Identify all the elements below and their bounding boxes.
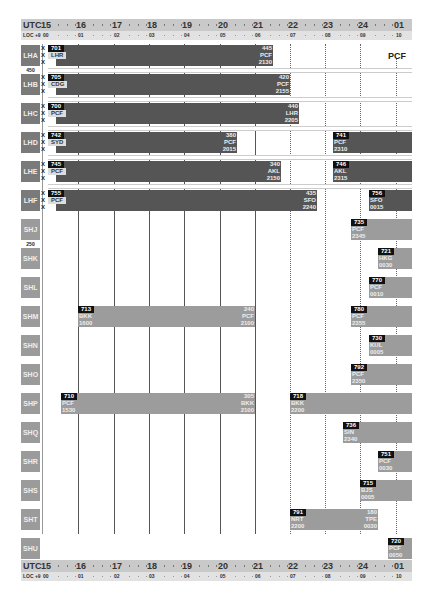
- quarter-tick: [384, 565, 385, 567]
- flight-bar[interactable]: 746AKL2315: [333, 161, 412, 182]
- quarter-tick: [340, 565, 341, 567]
- aircraft-reg-lhd[interactable]: LHD: [21, 132, 40, 153]
- aircraft-reg-shn[interactable]: SHN: [21, 335, 40, 356]
- quarter-tick: [305, 576, 306, 577]
- quarter-tick: [244, 565, 245, 567]
- flight-bar[interactable]: 721HKG0030: [378, 248, 412, 269]
- aircraft-reg-shl[interactable]: SHL: [21, 277, 40, 298]
- flight-bar[interactable]: 713BKK1600240PCF2100: [78, 306, 255, 327]
- quarter-tick: [93, 35, 94, 36]
- origin-station: AKL: [334, 168, 346, 175]
- flight-number: 741: [333, 132, 349, 139]
- x-marks[interactable]: XXX: [41, 161, 45, 182]
- origin-station: PCF: [48, 110, 66, 117]
- aircraft-reg-shu[interactable]: SHU: [21, 538, 40, 559]
- aircraft-reg-lhf[interactable]: LHF: [21, 190, 40, 211]
- quarter-tick: [93, 565, 94, 567]
- return-flight-number: 380: [226, 132, 236, 139]
- utc-hour-tick: 18: [147, 560, 157, 572]
- aircraft-reg-sht[interactable]: SHT: [21, 509, 40, 530]
- flight-bar[interactable]: 791NRT2200180TPE0030: [290, 509, 378, 530]
- quarter-tick: [58, 576, 59, 577]
- quarter-tick: [110, 35, 111, 36]
- local-hour-tick: 07: [290, 572, 296, 581]
- flight-number: 715: [360, 480, 376, 487]
- flight-number: 791: [290, 509, 306, 516]
- flight-bar[interactable]: 445PCF2130: [56, 45, 273, 66]
- quarter-tick: [322, 35, 323, 36]
- origin-station: SIN: [344, 429, 354, 436]
- aircraft-reg-lha[interactable]: LHA: [21, 45, 40, 66]
- flight-bar[interactable]: 440LHR2205: [56, 103, 299, 124]
- quarter-tick: [93, 576, 94, 577]
- quarter-tick: [102, 576, 103, 577]
- flight-bar[interactable]: 770PCF0010: [369, 277, 412, 298]
- aircraft-reg-lhb[interactable]: LHB: [21, 74, 40, 95]
- quarter-tick: [357, 576, 358, 577]
- destination-station: PCF: [277, 81, 289, 88]
- quarter-tick: [164, 565, 165, 567]
- hour-gridline: [325, 44, 326, 534]
- flight-bar[interactable]: 340AKL2150: [56, 161, 281, 182]
- flight-bar[interactable]: 756SFO0015: [369, 190, 412, 211]
- x-marks[interactable]: XXX: [41, 45, 45, 66]
- aircraft-reg-lhc[interactable]: LHC: [21, 103, 40, 124]
- quarter-tick: [208, 565, 209, 567]
- return-flight-number: 340: [270, 161, 280, 168]
- aircraft-reg-shq[interactable]: SHQ: [21, 422, 40, 443]
- aircraft-reg-shj[interactable]: SHJ: [21, 219, 40, 240]
- aircraft-reg-shk[interactable]: SHK: [21, 248, 40, 269]
- flight-bar[interactable]: 736SIN2340: [343, 422, 412, 443]
- quarter-tick: [305, 565, 306, 567]
- utc-hour-tick: 18: [147, 19, 157, 31]
- aircraft-reg-shs[interactable]: SHS: [21, 480, 40, 501]
- flight-bar[interactable]: 435SFO2240: [56, 190, 317, 211]
- destination-station: SFO: [304, 197, 316, 204]
- aircraft-reg-sho[interactable]: SHO: [21, 364, 40, 385]
- quarter-tick: [216, 35, 217, 36]
- x-marks[interactable]: XXX: [41, 103, 45, 124]
- aircraft-reg-shr[interactable]: SHR: [21, 451, 40, 472]
- flight-bar[interactable]: 380PCF2015: [56, 132, 237, 153]
- quarter-tick: [102, 24, 103, 26]
- flight-bar[interactable]: 420PCF2155: [56, 74, 290, 95]
- flight-bar[interactable]: 730KUL0005: [369, 335, 412, 356]
- departure-time: 1600: [79, 320, 92, 327]
- x-marks[interactable]: XXX: [41, 74, 45, 95]
- local-hour-tick: 02: [114, 31, 120, 40]
- flight-bar[interactable]: 735PCF2345: [351, 219, 412, 240]
- aircraft-reg-shp[interactable]: SHP: [21, 393, 40, 414]
- station-label: PCF: [388, 51, 406, 61]
- flight-bar[interactable]: 715BJS0005: [360, 480, 412, 501]
- quarter-tick: [235, 565, 236, 567]
- flight-bar[interactable]: 780PCF2355: [351, 306, 412, 327]
- flight-number: 755: [48, 190, 64, 197]
- flight-bar[interactable]: 792PCF2350: [351, 364, 412, 385]
- flight-bar[interactable]: 710PCF1530305BKK2100: [61, 393, 255, 414]
- utc-hour-tick: 01: [394, 19, 404, 31]
- quarter-tick: [129, 24, 130, 26]
- quarter-tick: [67, 565, 68, 567]
- quarter-tick: [384, 24, 385, 26]
- quarter-tick: [279, 565, 280, 567]
- quarter-tick: [270, 35, 271, 36]
- flight-bar[interactable]: 751PCF0030: [378, 451, 412, 472]
- aircraft-reg-lhe[interactable]: LHE: [21, 161, 40, 182]
- flight-bar[interactable]: 718BKK2200: [290, 393, 412, 414]
- x-marks[interactable]: XXX: [41, 190, 45, 211]
- quarter-tick: [173, 24, 174, 26]
- flight-number: 700: [48, 103, 64, 110]
- local-hour-tick: 03: [149, 31, 155, 40]
- quarter-tick: [349, 565, 350, 567]
- local-hour-tick: 01: [78, 572, 84, 581]
- quarter-tick: [252, 35, 253, 36]
- origin-station: CDG: [48, 81, 67, 88]
- x-marks[interactable]: XXX: [41, 132, 45, 153]
- origin-station: PCF: [334, 139, 346, 146]
- departure-time: 1530: [62, 407, 75, 414]
- flight-bar[interactable]: 720PCF0050: [388, 538, 412, 559]
- aircraft-reg-shm[interactable]: SHM: [21, 306, 40, 327]
- quarter-tick: [305, 35, 306, 36]
- flight-bar[interactable]: 741PCF2310: [333, 132, 412, 153]
- flight-number: 756: [369, 190, 385, 197]
